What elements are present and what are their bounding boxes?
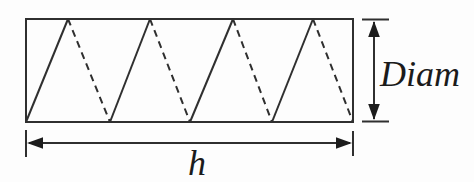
arrow-down-head-icon (368, 104, 380, 120)
coil-back-line (313, 19, 353, 122)
coil-front-line (190, 19, 233, 122)
coil-back-line (150, 19, 190, 122)
coil-front-lines (26, 19, 313, 122)
arrow-up-head-icon (368, 21, 380, 37)
coil-dimension-diagram: Diam h (0, 0, 474, 182)
coil-front-line (272, 19, 313, 122)
arrow-left-head-icon (27, 137, 43, 148)
height-label: h (188, 143, 206, 182)
arrow-right-head-icon (336, 137, 352, 148)
diameter-label: Diam (379, 54, 460, 94)
coil-back-line (68, 19, 110, 122)
diagram-canvas: Diam h (0, 0, 474, 182)
coil-back-line (233, 19, 272, 122)
coil-front-line (26, 19, 68, 122)
coil-front-line (110, 19, 150, 122)
